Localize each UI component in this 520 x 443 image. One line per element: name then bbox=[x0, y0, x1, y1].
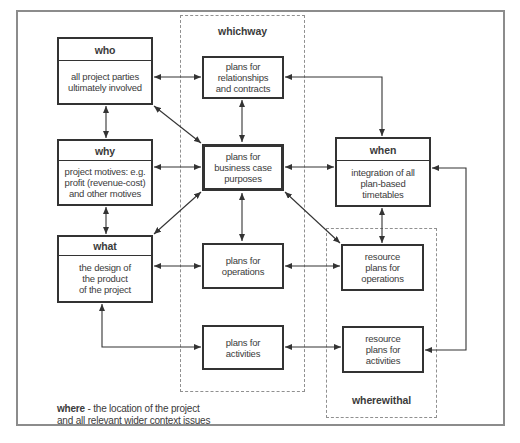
box-text-line: resource bbox=[365, 251, 400, 262]
plans-activities-box-body: plans foractivities bbox=[204, 327, 282, 368]
box-text-line: purposes bbox=[224, 173, 261, 184]
whichway-group-label: whichway bbox=[181, 25, 304, 37]
plans-relationships-box-body: plans forrelationshipsand contracts bbox=[204, 58, 282, 97]
plans-business-case-box: plans forbusiness casepurposes bbox=[202, 144, 284, 191]
why-box: why project motives: e.g.profit (revenue… bbox=[57, 139, 153, 206]
plans-activities-box: plans foractivities bbox=[202, 325, 284, 370]
box-text-line: project motives: e.g. bbox=[65, 166, 146, 177]
what-box-body: the design ofthe productof the project bbox=[59, 256, 151, 301]
what-box: what the design ofthe productof the proj… bbox=[57, 235, 153, 303]
box-text-line: and contracts bbox=[216, 83, 270, 94]
who-box: who all project partiesultimately involv… bbox=[57, 37, 153, 105]
resource-plans-activities-box: resourceplans foractivities bbox=[342, 326, 424, 373]
box-text-line: plans for bbox=[226, 337, 261, 348]
box-text-line: relationships bbox=[218, 72, 269, 83]
plans-operations-box-body: plans foroperations bbox=[204, 245, 282, 287]
when-box-body: integration of allplan-basedtimetables bbox=[337, 161, 429, 205]
box-text-line: resource bbox=[365, 333, 400, 344]
box-text-line: operations bbox=[222, 266, 264, 277]
when-box: when integration of allplan-basedtimetab… bbox=[335, 137, 431, 207]
box-text-line: plans for bbox=[366, 344, 401, 355]
box-text-line: plans for bbox=[365, 262, 400, 273]
resource-plans-activities-box-body: resourceplans foractivities bbox=[344, 328, 422, 371]
plans-business-case-box-body: plans forbusiness casepurposes bbox=[205, 147, 281, 188]
box-text-line: plans for bbox=[226, 151, 261, 162]
who-box-body: all project partiesultimately involved bbox=[59, 61, 151, 103]
what-box-title: what bbox=[59, 237, 151, 256]
box-text-line: business case bbox=[214, 162, 272, 173]
why-box-body: project motives: e.g.profit (revenue-cos… bbox=[59, 161, 151, 204]
box-text-line: activities bbox=[366, 355, 400, 366]
box-text-line: operations bbox=[361, 273, 403, 284]
where-caption-keyword: where bbox=[57, 403, 85, 414]
when-box-title: when bbox=[337, 139, 429, 161]
box-text-line: of the project bbox=[79, 284, 131, 295]
who-box-title: who bbox=[59, 39, 151, 61]
box-text-line: activities bbox=[226, 348, 260, 359]
box-text-line: plan-based bbox=[360, 178, 405, 189]
box-text-line: profit (revenue-cost) bbox=[65, 177, 146, 188]
box-text-line: the design of bbox=[79, 262, 131, 273]
box-text-line: plans for bbox=[226, 255, 261, 266]
box-text-line: timetables bbox=[362, 189, 403, 200]
where-caption: where - the location of the project and … bbox=[57, 403, 287, 427]
resource-plans-operations-box-body: resourceplans foroperations bbox=[343, 246, 422, 289]
box-text-line: plans for bbox=[226, 61, 261, 72]
diagram-canvas: whichway wherewithal who all project par… bbox=[0, 0, 520, 443]
resource-plans-operations-box: resourceplans foroperations bbox=[341, 244, 424, 291]
box-text-line: all project parties bbox=[71, 71, 139, 82]
plans-relationships-box: plans forrelationshipsand contracts bbox=[202, 56, 284, 99]
box-text-line: the product bbox=[82, 273, 127, 284]
where-caption-line2: and all relevant wider context issues bbox=[57, 415, 287, 427]
where-caption-rest: - the location of the project bbox=[85, 403, 200, 414]
why-box-title: why bbox=[59, 141, 151, 161]
box-text-line: ultimately involved bbox=[68, 82, 142, 93]
box-text-line: integration of all bbox=[351, 167, 414, 178]
plans-operations-box: plans foroperations bbox=[202, 243, 284, 289]
wherewithal-group-label: wherewithal bbox=[327, 394, 436, 406]
box-text-line: and other motives bbox=[69, 188, 141, 199]
where-caption-line1: where - the location of the project bbox=[57, 403, 287, 415]
